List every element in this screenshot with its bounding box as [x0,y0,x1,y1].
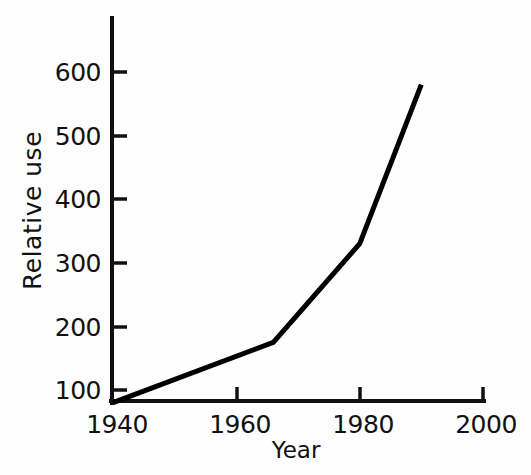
x-tick-label-2000: 2000 [455,410,517,439]
chart-figure: 600 500 400 300 200 100 1940 1960 1980 2… [0,0,531,475]
x-tick-label-1980: 1980 [332,410,394,439]
x-axis-title: Year [272,437,321,463]
x-tick-label-1940: 1940 [86,410,148,439]
data-series-relative-use [113,85,421,403]
y-tick-label-200: 200 [37,313,101,342]
x-axis-ticks [237,387,483,401]
y-tick-label-100: 100 [37,376,101,405]
x-tick-label-1960: 1960 [209,410,271,439]
y-axis-ticks [112,72,127,390]
y-axis-title: Relative use [18,131,47,290]
y-tick-label-600: 600 [37,58,101,87]
